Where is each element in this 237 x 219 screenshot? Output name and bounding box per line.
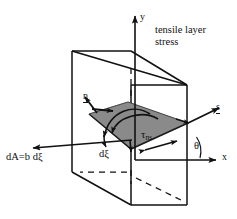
element-thickness-label: dξ <box>99 148 109 159</box>
area-label: dA=b dξ <box>6 151 43 162</box>
s-vector-arrow <box>186 108 219 124</box>
stress-element-diagram: y x θ n s tensile layer stress τns dξ dA… <box>0 0 237 219</box>
shear-stress-label: τns <box>141 129 152 141</box>
normal-vector-symbol: n <box>83 91 88 103</box>
tensile-note-line-2: stress <box>155 36 206 48</box>
shear-stress-subscript: ns <box>145 133 152 142</box>
normal-vector-label: n <box>83 85 88 103</box>
tangent-vector-label: s <box>216 96 220 114</box>
tensile-layer-stress-note: tensile layer stress <box>155 24 206 48</box>
area-arrow <box>33 140 132 148</box>
dxi-leader-arrow <box>104 135 106 147</box>
shear-stress-double-arrow <box>145 141 177 150</box>
tangent-vector-symbol: s <box>216 102 220 114</box>
x-axis-label: x <box>222 152 227 163</box>
theta-angle-label: θ <box>194 140 199 151</box>
tensile-note-line-1: tensile layer <box>155 24 206 36</box>
y-axis-label: y <box>140 12 145 23</box>
